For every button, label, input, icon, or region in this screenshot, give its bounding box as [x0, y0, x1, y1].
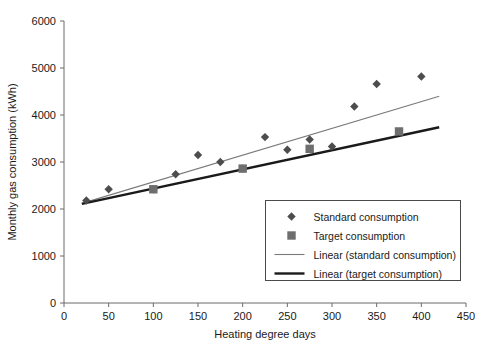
x-tick-label: 450 — [457, 310, 475, 322]
x-tick-label: 0 — [61, 310, 67, 322]
x-tick-label: 250 — [278, 310, 296, 322]
standard-consumption-point — [216, 158, 224, 166]
standard-consumption-point — [283, 146, 291, 154]
x-axis-title: Heating degree days — [214, 328, 316, 340]
x-tick-label: 200 — [233, 310, 251, 322]
standard-consumption-point — [350, 102, 358, 110]
x-tick-label: 350 — [367, 310, 385, 322]
y-axis-title: Monthly gas consumption (kWh) — [6, 83, 18, 240]
standard-consumption-point — [417, 72, 425, 80]
legend-item-label: Target consumption — [314, 230, 406, 242]
y-tick-label: 1000 — [32, 250, 56, 262]
y-tick-label: 0 — [50, 297, 56, 309]
legend-item-label: Linear (standard consumption) — [314, 249, 456, 261]
legend-square-icon — [287, 231, 295, 239]
y-tick-label: 6000 — [32, 15, 56, 27]
standard-consumption-point — [372, 80, 380, 88]
y-tick-label: 4000 — [32, 109, 56, 121]
x-axis-ticks: 050100150200250300350400450 — [61, 303, 475, 322]
gas-consumption-scatter-chart: 0100020003000400050006000 05010015020025… — [0, 0, 495, 353]
y-axis-ticks: 0100020003000400050006000 — [32, 15, 64, 309]
target-consumption-point — [305, 145, 313, 153]
target-consumption-point — [238, 164, 246, 172]
legend-item-label: Standard consumption — [314, 211, 419, 223]
chart-legend: Standard consumptionTarget consumptionLi… — [266, 201, 461, 281]
standard-consumption-point — [194, 151, 202, 159]
standard-consumption-point — [171, 170, 179, 178]
series-layer — [82, 72, 439, 204]
target-consumption-point — [395, 127, 403, 135]
x-tick-label: 150 — [189, 310, 207, 322]
y-tick-label: 5000 — [32, 62, 56, 74]
standard-trendline — [82, 96, 439, 203]
target-consumption-point — [149, 185, 157, 193]
y-tick-label: 3000 — [32, 156, 56, 168]
x-tick-label: 400 — [412, 310, 430, 322]
x-tick-label: 50 — [103, 310, 115, 322]
standard-consumption-point — [104, 185, 112, 193]
chart-canvas: 0100020003000400050006000 05010015020025… — [0, 0, 495, 353]
x-tick-label: 100 — [144, 310, 162, 322]
legend-item-label: Linear (target consumption) — [314, 268, 442, 280]
target-trendline — [82, 127, 439, 204]
standard-consumption-point — [261, 133, 269, 141]
x-tick-label: 300 — [323, 310, 341, 322]
y-tick-label: 2000 — [32, 203, 56, 215]
